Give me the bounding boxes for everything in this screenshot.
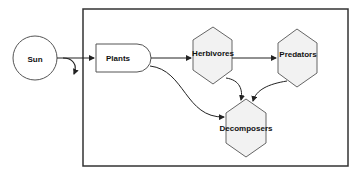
plants-label: Plants xyxy=(106,54,130,63)
edge-sun-energy-loss xyxy=(63,58,75,74)
edge-herbivores-to-decomposers xyxy=(226,78,242,100)
edge-predators-to-decomposers xyxy=(253,81,287,101)
predators-label: Predators xyxy=(279,50,316,59)
herbivores-label: Herbivores xyxy=(192,49,234,58)
decomposers-label: Decomposers xyxy=(220,124,273,133)
food-web-diagram xyxy=(0,0,362,174)
sun-label: Sun xyxy=(27,55,42,64)
